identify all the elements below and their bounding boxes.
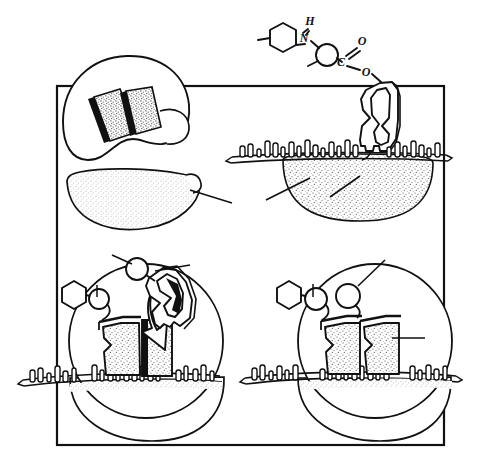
figure-canvas: H N O C O bbox=[0, 0, 482, 465]
carbon-sphere-left bbox=[89, 289, 109, 309]
hexagon-side-chain bbox=[277, 281, 301, 309]
carbon-sphere-incoming bbox=[126, 258, 148, 280]
diagram-svg: H N O C O bbox=[0, 0, 482, 465]
carbon-sphere-left bbox=[305, 288, 327, 310]
atom-label-O-carbonyl: O bbox=[358, 34, 367, 48]
carbon-sphere-right bbox=[336, 284, 360, 308]
atom-label-N: N bbox=[299, 31, 310, 45]
hexagon-side-chain bbox=[62, 281, 86, 309]
atom-label-C: C bbox=[337, 55, 346, 69]
atom-label-O-ester: O bbox=[362, 65, 371, 79]
atom-label-H: H bbox=[304, 14, 315, 28]
